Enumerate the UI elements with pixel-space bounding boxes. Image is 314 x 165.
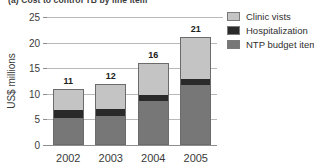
gridline <box>47 17 223 18</box>
stacked-bar[interactable] <box>180 37 211 145</box>
legend-label: Hospitalization <box>246 25 308 36</box>
stacked-bar[interactable] <box>53 89 84 145</box>
bar-segment-clinic[interactable] <box>181 38 210 78</box>
y-axis-tick-label: 15 <box>29 63 40 74</box>
bar-segment-ntp[interactable] <box>96 116 125 144</box>
bar-segment-clinic[interactable] <box>139 64 168 94</box>
x-axis-category-label: 2003 <box>99 152 123 164</box>
y-axis-tick <box>43 17 47 18</box>
legend-swatch-clinic-vists <box>227 12 240 21</box>
figure-caption: (a) Cost to control TB by line item <box>8 0 148 5</box>
y-axis-tick-label: 20 <box>29 37 40 48</box>
bar-segment-ntp[interactable] <box>54 118 83 144</box>
bar-segment-clinic[interactable] <box>54 90 83 111</box>
legend-swatch-hospitalization <box>227 26 240 35</box>
chart-legend: Clinic vists Hospitalization NTP budget … <box>227 10 314 52</box>
chart-figure: (a) Cost to control TB by line item US$ … <box>0 0 314 165</box>
bar-segment-ntp[interactable] <box>181 85 210 144</box>
y-axis-tick-label: 25 <box>29 12 40 23</box>
x-axis-category-label: 2002 <box>56 152 80 164</box>
y-axis-tick <box>43 119 47 120</box>
bar-total-label: 12 <box>106 71 116 81</box>
y-axis-tick-label: 0 <box>34 140 40 151</box>
y-axis-title: US$ millions <box>6 17 18 145</box>
y-axis-tick <box>43 94 47 95</box>
bar-total-label: 16 <box>148 50 158 60</box>
x-axis-category-label: 2004 <box>141 152 165 164</box>
bar-total-label: 21 <box>191 24 201 34</box>
legend-item: NTP budget items <box>227 38 314 51</box>
legend-label: Clinic vists <box>246 11 291 22</box>
bar-segment-clinic[interactable] <box>96 85 125 110</box>
bar-segment-hosp[interactable] <box>54 110 83 118</box>
x-axis-line <box>47 145 217 146</box>
y-axis-tick <box>43 145 47 146</box>
legend-label: NTP budget items <box>246 39 314 50</box>
y-axis-tick-label: 5 <box>34 114 40 125</box>
stacked-bar[interactable] <box>95 84 126 145</box>
stacked-bar[interactable] <box>138 63 169 145</box>
y-axis-tick-label: 10 <box>29 88 40 99</box>
bar-total-label: 11 <box>63 76 73 86</box>
legend-item: Hospitalization <box>227 24 314 37</box>
x-axis-category-label: 2005 <box>184 152 208 164</box>
plot-area: 0510152025112002122003162004212005 <box>47 17 217 145</box>
bar-segment-hosp[interactable] <box>96 109 125 116</box>
legend-swatch-ntp-budget-items <box>227 40 240 49</box>
legend-item: Clinic vists <box>227 10 314 23</box>
y-axis-tick <box>43 68 47 69</box>
y-axis-tick <box>43 43 47 44</box>
bar-segment-ntp[interactable] <box>139 101 168 144</box>
